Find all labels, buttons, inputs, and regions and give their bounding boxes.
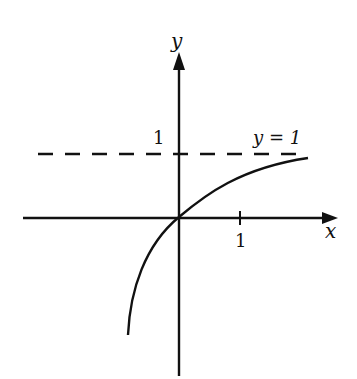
asymptote-label: y = 1 [252,127,301,148]
graph: y x 1 1 y = 1 [0,0,357,379]
x-tick-label: 1 [235,230,246,251]
function-curve [128,158,308,335]
x-axis-label: x [325,219,336,243]
y-axis-arrow-icon [173,52,185,70]
y-tick-label: 1 [153,127,164,148]
y-axis-label: y [170,29,183,53]
